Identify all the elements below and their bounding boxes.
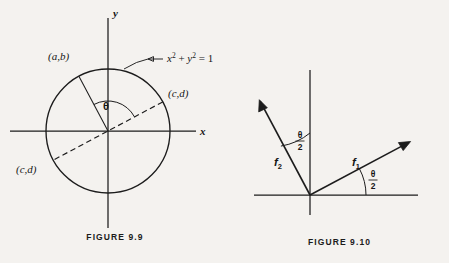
x-axis-label: x	[199, 125, 206, 137]
angle-f2-numerator: θ	[298, 130, 303, 140]
vector-f1-label: f1	[352, 156, 360, 171]
angle-f1-half-theta: θ 2	[369, 169, 378, 191]
figure-9-10-svg: f1 f2 θ 2 θ 2	[230, 0, 449, 237]
angle-arc-f1	[359, 169, 366, 195]
point-cd-upper-label: (c,d)	[168, 87, 189, 100]
angle-arc-f2	[281, 133, 310, 146]
vector-f1-label-sub: 1	[356, 162, 360, 171]
equation-leader-curve	[124, 59, 148, 69]
angle-f2-denominator: 2	[298, 142, 303, 152]
angle-f2-half-theta: θ 2	[296, 130, 305, 152]
point-ab-label: (a,b)	[48, 50, 69, 63]
angle-theta-label: θ	[103, 100, 109, 112]
vector-f2-arrowhead	[259, 100, 268, 112]
figure-9-9-svg: y x x2 + y2 = 1 (a,b) (c,d) (c,d) θ	[0, 0, 230, 232]
angle-arc-theta	[94, 101, 135, 117]
point-cd-lower-label: (c,d)	[16, 163, 37, 176]
equation-equals: = 1	[196, 52, 213, 64]
vector-f2-label-sub: 2	[278, 162, 282, 171]
figure-9-10-caption: FIGURE 9.10	[230, 237, 449, 247]
angle-f1-numerator: θ	[371, 169, 376, 179]
circle-equation-label: x2 + y2 = 1	[166, 51, 213, 64]
figure-9-9: y x x2 + y2 = 1 (a,b) (c,d) (c,d) θ FIGU…	[0, 0, 230, 263]
figure-9-10: f1 f2 θ 2 θ 2 FIGURE 9.10	[230, 0, 449, 263]
vector-f1-arrowhead	[398, 142, 410, 151]
angle-f1-denominator: 2	[371, 181, 376, 191]
vector-f2-shaft	[260, 101, 310, 195]
vector-f2-label: f2	[274, 156, 282, 171]
page-root: y x x2 + y2 = 1 (a,b) (c,d) (c,d) θ FIGU…	[0, 0, 449, 263]
figure-9-9-caption: FIGURE 9.9	[0, 232, 230, 242]
equation-plus: +	[176, 52, 188, 64]
y-axis-label: y	[111, 7, 118, 19]
